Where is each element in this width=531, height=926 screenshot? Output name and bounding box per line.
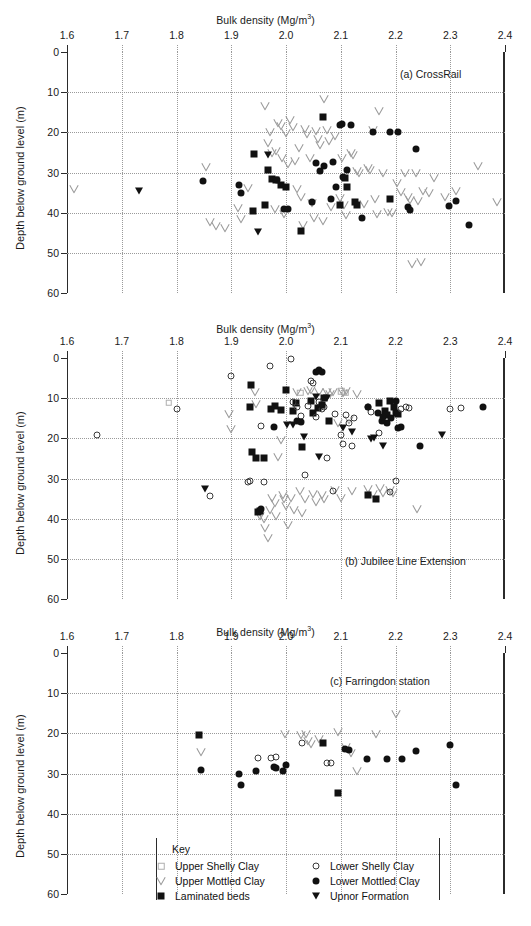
x-tick-label: 2.4 — [498, 335, 513, 347]
x-axis-title-a: Bulk density (Mg/m3) — [0, 13, 531, 26]
legend-label: Lower Mottled Clay — [330, 875, 420, 887]
x-tick-mark — [396, 45, 397, 52]
y-gridline — [67, 253, 505, 254]
y-tick-mark — [61, 479, 67, 480]
x-tick-label: 1.7 — [114, 335, 129, 347]
x-tick-mark — [286, 45, 287, 52]
legend-label: Lower Shelly Clay — [330, 860, 414, 872]
x-tick-label: 2.3 — [443, 29, 458, 41]
x-tick-mark — [122, 45, 123, 52]
x-axis-title-b: Bulk density (Mg/m3) — [0, 322, 531, 335]
x-tick-label: 1.8 — [169, 335, 184, 347]
panel-caption-a: (a) CrossRail — [400, 68, 461, 80]
y-tick-label: 0 — [31, 352, 59, 364]
y-tick-label: 20 — [31, 432, 59, 444]
y-tick-label: 30 — [31, 167, 59, 179]
x-axis-title-text: Bulk density (Mg/m — [216, 323, 307, 335]
y-gridline — [67, 213, 505, 214]
x-tick-mark — [177, 351, 178, 358]
y-gridline — [67, 479, 505, 480]
x-tick-mark — [450, 45, 451, 52]
panel-caption-b: (b) Jubilee Line Extension — [345, 555, 466, 567]
x-axis-title-paren: ) — [311, 14, 315, 26]
y-gridline — [67, 132, 505, 133]
y-tick-label: 10 — [31, 392, 59, 404]
x-tick-label: 2.4 — [498, 29, 513, 41]
x-tick-mark — [231, 45, 232, 52]
legend-marker-open-square — [158, 863, 165, 870]
legend-marker-filled-circle — [313, 878, 320, 885]
x-tick-label: 1.7 — [114, 29, 129, 41]
x-tick-mark — [396, 351, 397, 358]
y-tick-label: 40 — [31, 207, 59, 219]
y-tick-mark — [61, 253, 67, 254]
x-tick-label: 2.0 — [279, 335, 294, 347]
x-tick-label: 1.6 — [60, 29, 75, 41]
y-tick-mark — [61, 519, 67, 520]
panel-b: Bulk density (Mg/m3) Depth below ground … — [0, 300, 531, 600]
y-tick-mark — [61, 358, 67, 359]
x-tick-mark — [450, 351, 451, 358]
x-tick-label: 1.9 — [224, 335, 239, 347]
x-tick-mark — [505, 45, 506, 52]
x-tick-label: 2.2 — [388, 29, 403, 41]
x-tick-mark — [341, 351, 342, 358]
legend-marker-filled-square — [158, 893, 165, 900]
y-gridline — [67, 92, 505, 93]
x-tick-mark — [505, 351, 506, 358]
panel-c: Bulk density (Mg/m3) Depth below ground … — [0, 600, 531, 926]
y-tick-mark — [61, 559, 67, 560]
legend-label: Laminated beds — [175, 890, 250, 902]
x-tick-mark — [67, 351, 68, 358]
y-tick-label: 30 — [31, 473, 59, 485]
x-tick-mark — [286, 351, 287, 358]
y-tick-label: 10 — [31, 86, 59, 98]
y-axis-label-b: Depth below ground level (m) — [14, 411, 26, 555]
x-tick-mark — [122, 351, 123, 358]
legend-right-rule — [439, 838, 440, 900]
y-tick-label: 20 — [31, 126, 59, 138]
y-tick-label: 60 — [31, 287, 59, 299]
y-tick-mark — [61, 398, 67, 399]
x-axis-title-paren: ) — [311, 323, 315, 335]
y-gridline — [67, 398, 505, 399]
y-axis-label-a: Depth below ground level (m) — [14, 106, 26, 250]
legend-marker-filled-down-triangle — [312, 893, 320, 900]
x-tick-mark — [67, 45, 68, 52]
x-tick-label: 2.1 — [333, 29, 348, 41]
x-tick-mark — [177, 45, 178, 52]
x-axis-title-text: Bulk density (Mg/m — [216, 14, 307, 26]
legend-title: Key — [172, 843, 190, 855]
legend-label: Upper Shelly Clay — [175, 860, 259, 872]
y-gridline — [67, 173, 505, 174]
x-tick-label: 2.3 — [443, 335, 458, 347]
y-tick-mark — [61, 173, 67, 174]
y-tick-label: 50 — [31, 553, 59, 565]
panel-a: Bulk density (Mg/m3) Depth below ground … — [0, 0, 531, 300]
y-tick-mark — [61, 293, 67, 294]
legend-key: KeyUpper Shelly ClayUpper Mottled ClayLa… — [0, 600, 531, 926]
plot-area-a: 1.61.71.81.92.02.12.22.32.40102030405060 — [67, 52, 505, 293]
y-tick-label: 40 — [31, 513, 59, 525]
x-tick-label: 2.0 — [279, 29, 294, 41]
x-tick-label: 2.2 — [388, 335, 403, 347]
y-tick-mark — [61, 213, 67, 214]
y-tick-label: 50 — [31, 247, 59, 259]
y-tick-mark — [61, 92, 67, 93]
y-tick-mark — [61, 132, 67, 133]
y-tick-mark — [61, 438, 67, 439]
legend-marker-open-circle — [313, 863, 320, 870]
y-tick-mark — [61, 52, 67, 53]
legend-label: Upper Mottled Clay — [175, 875, 265, 887]
x-tick-label: 1.9 — [224, 29, 239, 41]
y-tick-label: 0 — [31, 46, 59, 58]
legend-label: Upnor Formation — [330, 890, 409, 902]
x-tick-label: 1.8 — [169, 29, 184, 41]
x-tick-mark — [341, 45, 342, 52]
figure-bulk-density-vs-depth: Bulk density (Mg/m3) Depth below ground … — [0, 0, 531, 926]
x-tick-mark — [231, 351, 232, 358]
y-gridline — [67, 519, 505, 520]
legend-marker-open-vee — [156, 877, 166, 886]
x-tick-label: 1.6 — [60, 335, 75, 347]
x-tick-label: 2.1 — [333, 335, 348, 347]
